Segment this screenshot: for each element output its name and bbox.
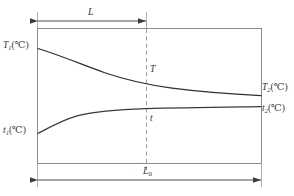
label-inlet-cold-unit: (℃)	[9, 125, 26, 135]
label-inlet-cold-temperature: t1(℃)	[3, 126, 26, 136]
dimension-label-L0-symbol: L	[143, 165, 149, 176]
curve-label-cold: t	[150, 114, 153, 124]
dimension-label-L-symbol: L	[88, 6, 94, 17]
label-outlet-cold-unit: (℃)	[268, 103, 285, 113]
dimension-label-total-length: L0	[143, 166, 152, 176]
label-inlet-hot-subscript: 1	[8, 44, 11, 51]
dimension-label-partial-length: L	[88, 7, 94, 17]
frame-rect	[38, 29, 262, 164]
label-outlet-hot-temperature: T2(℃)	[262, 83, 288, 93]
diagram-canvas: T1(℃) t1(℃) T2(℃) t2(℃) L L0 T t	[0, 0, 294, 196]
label-outlet-cold-temperature: t2(℃)	[262, 104, 285, 114]
dimension-label-L0-subscript: 0	[149, 170, 153, 178]
label-outlet-cold-subscript: 2	[265, 107, 268, 114]
label-outlet-hot-subscript: 2	[267, 86, 270, 93]
frame-border	[38, 29, 262, 164]
label-outlet-hot-unit: (℃)	[271, 82, 288, 92]
curve-label-hot: T	[150, 65, 155, 75]
label-inlet-hot-temperature: T1(℃)	[3, 41, 29, 51]
label-inlet-cold-subscript: 1	[6, 129, 9, 136]
label-inlet-hot-unit: (℃)	[12, 40, 29, 50]
